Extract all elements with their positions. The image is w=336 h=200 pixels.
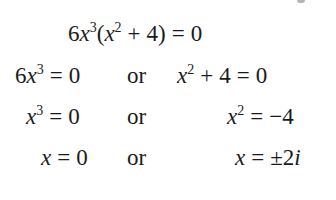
equals-sign: = <box>44 63 69 88</box>
cropped-glyph-fragment <box>297 0 305 3</box>
variable: x <box>235 145 245 170</box>
zero-product-right-2: x2+4=0 <box>177 64 267 87</box>
variable: x <box>177 63 187 88</box>
imaginary-unit: i <box>294 145 300 170</box>
plus-operator: + <box>122 21 147 46</box>
constant: 4 <box>147 21 159 46</box>
exponent: 2 <box>115 20 122 35</box>
equals-sign: = <box>244 104 269 129</box>
right-hand-side: 0 <box>69 63 81 88</box>
close-paren: ) <box>158 21 166 46</box>
exponent: 3 <box>37 62 44 77</box>
or-connector: or <box>127 64 146 87</box>
plus-minus-sign: ± <box>270 145 283 170</box>
zero-product-left-2: 6x3=0 <box>15 64 80 87</box>
solve-left-3: x3=0 <box>26 105 80 128</box>
right-hand-side: 0 <box>76 145 88 170</box>
solve-right-3: x2=−4 <box>227 105 294 128</box>
exponent: 3 <box>90 20 97 35</box>
solution-right: x=±2i <box>235 146 301 169</box>
constant: 4 <box>219 63 231 88</box>
equals-sign: = <box>231 63 256 88</box>
equals-sign: = <box>245 145 270 170</box>
variable: x <box>26 104 36 129</box>
equals-sign: = <box>166 21 191 46</box>
plus-operator: + <box>194 63 219 88</box>
coefficient: 6 <box>68 21 80 46</box>
variable: x <box>227 104 237 129</box>
right-hand-side: 0 <box>256 63 268 88</box>
right-hand-side: −4 <box>269 104 293 129</box>
equals-sign: = <box>43 104 68 129</box>
factored-equation: 6x3(x2+4)=0 <box>68 22 202 45</box>
or-connector: or <box>127 105 146 128</box>
variable: x <box>41 145 51 170</box>
right-hand-side: 0 <box>68 104 80 129</box>
variable: x <box>80 21 90 46</box>
variable: x <box>104 21 114 46</box>
or-connector: or <box>127 146 146 169</box>
equals-sign: = <box>51 145 76 170</box>
solution-left: x=0 <box>41 146 88 169</box>
variable: x <box>27 63 37 88</box>
coefficient: 6 <box>15 63 27 88</box>
right-hand-side: 0 <box>191 21 203 46</box>
constant: 2 <box>283 145 295 170</box>
